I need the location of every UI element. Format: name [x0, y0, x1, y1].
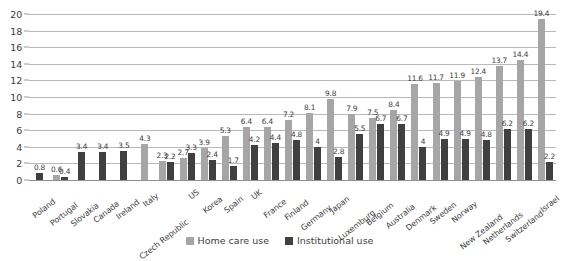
bar [475, 77, 482, 180]
bar-group: 3.4 [92, 14, 113, 180]
y-tick-label-12: 12 [10, 75, 22, 86]
bar [483, 140, 490, 180]
bar-group: 5.31.7 [219, 14, 240, 180]
bar-group: 8.46.7 [387, 14, 408, 180]
bar [61, 177, 68, 180]
bar [314, 147, 321, 180]
y-tick-label-2: 2 [16, 158, 22, 169]
x-axis-category-labels: PolandPortugalSlovakiaCanadaIrelandItaly… [29, 181, 556, 229]
bar-value-label: 6.2 [523, 119, 534, 128]
legend-label: Home care use [198, 235, 270, 246]
bar-value-label: 19.4 [534, 9, 550, 18]
bar-group: 9.82.8 [324, 14, 345, 180]
bar-group: 14.46.2 [514, 14, 535, 180]
bar [398, 124, 405, 180]
bar-value-label: 0.8 [34, 163, 45, 172]
bar-value-label: 3.4 [76, 142, 87, 151]
bar [462, 139, 469, 180]
bar-value-label: 6.4 [262, 117, 273, 126]
bar-groups: 0.80.60.43.43.43.54.32.32.22.73.33.92.45… [29, 14, 556, 180]
bar-value-label: 9.8 [325, 89, 336, 98]
bar-value-label: 4.2 [249, 135, 260, 144]
bar-value-label: 7.9 [346, 104, 357, 113]
bar-group: 6.44.2 [240, 14, 261, 180]
y-tick-label-10: 10 [10, 92, 22, 103]
y-axis: 02468101214161820 [0, 14, 29, 180]
bar-value-label: 3.5 [118, 141, 129, 150]
bar [369, 118, 376, 180]
legend-item: Institutional use [285, 235, 373, 246]
bar-value-label: 4.3 [139, 134, 150, 143]
bar-group: 3.5 [113, 14, 134, 180]
legend-swatch-icon [285, 237, 293, 245]
x-axis-label: Israel [539, 194, 561, 214]
bar [141, 144, 148, 180]
bar-value-label: 6.7 [375, 114, 386, 123]
bar [251, 145, 258, 180]
bar-value-label: 4.8 [481, 130, 492, 139]
bar-value-label: 4 [315, 137, 320, 146]
x-axis-label: Ireland [114, 198, 141, 222]
bar-value-label: 3.4 [97, 142, 108, 151]
x-axis-label: Japan [328, 194, 351, 215]
bar-value-label: 11.9 [449, 71, 465, 80]
bar-value-label: 4.9 [438, 129, 449, 138]
bar [293, 140, 300, 180]
bar-value-label: 8.4 [388, 100, 399, 109]
bar-value-label: 8.1 [304, 103, 315, 112]
bar [120, 151, 127, 180]
bar-value-label: 12.4 [470, 67, 486, 76]
bar-value-label: 3.9 [199, 138, 210, 147]
y-tick-label-20: 20 [10, 9, 22, 20]
bar [188, 153, 195, 180]
x-axis-label: Spain [223, 194, 246, 215]
bar [167, 162, 174, 180]
bar-group: 0.8 [29, 14, 50, 180]
bar [441, 139, 448, 180]
bar-value-label: 4.8 [291, 130, 302, 139]
bar-group: 13.76.2 [493, 14, 514, 180]
y-tick-label-16: 16 [10, 42, 22, 53]
y-tick-label-6: 6 [16, 125, 22, 136]
bar-group: 3.4 [71, 14, 92, 180]
y-tick-label-14: 14 [10, 58, 22, 69]
bar-value-label: 11.6 [407, 74, 423, 83]
y-tick-label-4: 4 [16, 141, 22, 152]
bar [327, 99, 334, 180]
bar-group: 11.74.9 [430, 14, 451, 180]
bar [78, 152, 85, 180]
legend-swatch-icon [186, 237, 194, 245]
bar-group: 7.56.7 [366, 14, 387, 180]
bar-value-label: 4 [421, 137, 426, 146]
bar-group: 4.3 [134, 14, 155, 180]
bar-value-label: 2.4 [207, 150, 218, 159]
bar-group: 11.64 [408, 14, 429, 180]
bar [36, 173, 43, 180]
bar-value-label: 5.3 [220, 126, 231, 135]
bar [53, 175, 60, 180]
bar [306, 113, 313, 180]
bar-group: 0.60.4 [50, 14, 71, 180]
bar [411, 84, 418, 180]
bar [159, 161, 166, 180]
bar-value-label: 4.9 [460, 129, 471, 138]
bar-value-label: 6.4 [241, 117, 252, 126]
bar-value-label: 2.8 [333, 147, 344, 156]
bar-group: 6.44.4 [261, 14, 282, 180]
bar-value-label: 7.2 [283, 110, 294, 119]
bar-value-label: 6.2 [502, 119, 513, 128]
legend-label: Institutional use [297, 235, 373, 246]
bar-group: 8.14 [303, 14, 324, 180]
bar-value-label: 11.7 [428, 73, 444, 82]
y-tick-label-0: 0 [16, 175, 22, 186]
x-axis-label: UK [250, 188, 264, 202]
bar-value-label: 6.7 [396, 114, 407, 123]
bar-value-label: 13.7 [491, 56, 507, 65]
legend-item: Home care use [186, 235, 270, 246]
bar [99, 152, 106, 180]
y-tick-label-18: 18 [10, 25, 22, 36]
x-axis-label: Korea [201, 195, 224, 216]
bar [335, 157, 342, 180]
bar-group: 3.92.4 [198, 14, 219, 180]
